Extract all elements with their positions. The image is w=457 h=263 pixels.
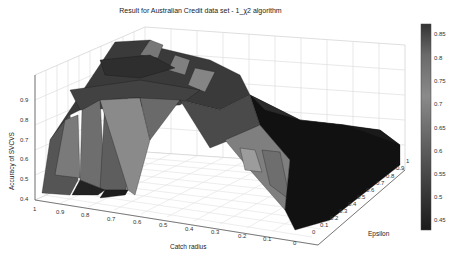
x-tick: 0.3: [211, 229, 220, 235]
x-axis-label: Catch radius: [170, 243, 207, 250]
z-tick: 0.7: [20, 137, 29, 143]
y-tick: 0.9: [396, 165, 405, 171]
x-tick: 0.8: [81, 212, 90, 218]
colorbar-tick: 0.75: [434, 78, 446, 84]
y-tick: 0.6: [366, 187, 375, 193]
y-tick: 0.3: [339, 208, 348, 214]
colorbar-tick: 0.6: [434, 148, 443, 154]
surface-plot: 0.9 0.8 0.7 0.6 0.5 0.4 Accuracy of SVCV…: [0, 0, 457, 263]
x-tick: 0.6: [133, 219, 142, 225]
y-axis-label: Epsilon: [368, 230, 390, 238]
colorbar: 0.85 0.8 0.75 0.7 0.65 0.6 0.55 0.5 0.45: [421, 24, 446, 230]
z-tick: 0.8: [20, 117, 29, 123]
x-tick: 0.2: [238, 233, 247, 239]
colorbar-tick: 0.8: [434, 55, 443, 61]
y-tick: 0.5: [357, 194, 366, 200]
z-tick: 0.6: [20, 156, 29, 162]
y-tick: 0.4: [348, 201, 357, 207]
x-tick: 0.1: [263, 236, 272, 242]
z-axis: 0.9 0.8 0.7 0.6 0.5 0.4 Accuracy of SVCV…: [8, 97, 29, 202]
z-tick: 0.9: [20, 97, 29, 103]
z-tick: 0.4: [20, 196, 29, 202]
colorbar-tick: 0.45: [434, 217, 446, 223]
colorbar-tick: 0.85: [434, 31, 446, 37]
y-tick: 0.2: [330, 215, 339, 221]
x-tick: 0.5: [159, 222, 168, 228]
y-tick: 0.1: [320, 222, 329, 228]
colorbar-tick: 0.55: [434, 171, 446, 177]
z-tick: 0.5: [20, 176, 29, 182]
x-tick: 0.4: [185, 226, 194, 232]
y-tick: 0.7: [376, 180, 385, 186]
x-tick: 1: [33, 206, 37, 212]
colorbar-tick: 0.5: [434, 194, 443, 200]
colorbar-tick: 0.65: [434, 125, 446, 131]
z-axis-label: Accuracy of SVCVS: [8, 132, 16, 190]
y-tick: 0.8: [386, 173, 395, 179]
y-tick: 1: [406, 158, 410, 164]
colorbar-tick: 0.7: [434, 101, 443, 107]
x-tick: 0.9: [56, 209, 65, 215]
x-tick: 0.7: [107, 216, 116, 222]
